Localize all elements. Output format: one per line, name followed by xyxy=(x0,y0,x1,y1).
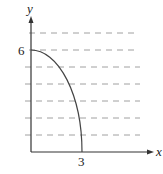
dashed-lines xyxy=(25,33,140,135)
y-axis-label: y xyxy=(25,1,33,16)
y-axis-arrow-icon xyxy=(29,16,34,23)
x-axis-arrow-icon xyxy=(147,150,154,155)
ellipse-diagram: y x 6 3 xyxy=(0,0,163,174)
x-tick-label: 3 xyxy=(78,154,85,169)
axes xyxy=(31,20,150,152)
x-axis-label: x xyxy=(155,144,162,159)
y-tick-label: 6 xyxy=(18,43,25,58)
